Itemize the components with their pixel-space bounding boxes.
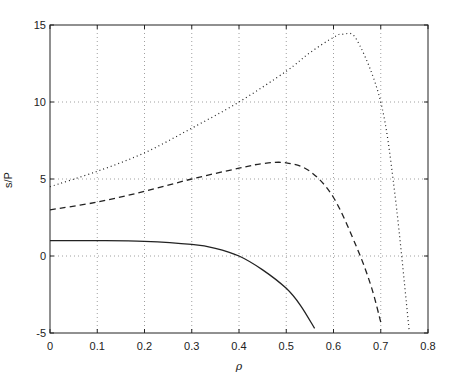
y-tick-label: 10 — [34, 96, 46, 108]
x-tick-label: 0.2 — [137, 340, 152, 352]
series-solid — [50, 241, 315, 329]
x-tick-label: 0.4 — [231, 340, 246, 352]
x-tick-label: 0.3 — [184, 340, 199, 352]
chart-svg: 00.10.20.30.40.50.60.70.8-5051015 ρ s/P — [0, 0, 458, 389]
x-tick-label: 0.5 — [279, 340, 294, 352]
x-tick-label: 0.8 — [420, 340, 435, 352]
y-tick-label: -5 — [36, 327, 46, 339]
y-tick-label: 0 — [40, 250, 46, 262]
y-axis-label: s/P — [2, 172, 14, 188]
x-axis-label: ρ — [235, 360, 243, 373]
x-tick-label: 0.6 — [326, 340, 341, 352]
series-dashed — [50, 162, 381, 322]
data-series — [50, 33, 409, 330]
x-tick-label: 0 — [47, 340, 53, 352]
y-tick-label: 15 — [34, 19, 46, 31]
x-tick-label: 0.7 — [373, 340, 388, 352]
x-tick-label: 0.1 — [90, 340, 105, 352]
y-tick-label: 5 — [40, 173, 46, 185]
series-dotted — [50, 33, 409, 330]
